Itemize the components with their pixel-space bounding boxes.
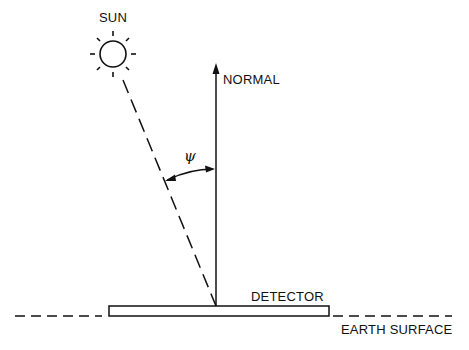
sun-icon: [90, 31, 136, 77]
angle-arrowhead-left-icon: [165, 175, 176, 182]
angle-psi-label: ψ: [184, 147, 196, 165]
angle-arrowhead-right-icon: [205, 166, 215, 173]
earth-surface-label: EARTH SURFACE: [341, 322, 452, 337]
detector-rect: [109, 306, 329, 316]
sun-ray-line: [123, 80, 216, 306]
diagram-canvas: [0, 0, 469, 350]
normal-arrowhead-icon: [213, 63, 220, 74]
sun-label: SUN: [99, 10, 127, 25]
normal-label: NORMAL: [223, 72, 280, 87]
detector-label: DETECTOR: [251, 289, 324, 304]
